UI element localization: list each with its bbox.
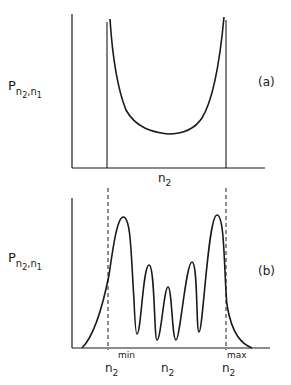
figure: Pn2,n1 (a) n2 Pn2,n1 (b) min n2 n2 max n… (0, 0, 291, 385)
x-tick-n2-min: min n2 (105, 350, 135, 378)
u-curve-a (110, 17, 224, 134)
x-tick-n2: n2 (161, 361, 174, 378)
svg-text:n2: n2 (222, 361, 235, 378)
svg-text:n2: n2 (161, 361, 174, 378)
x-tick-n2-max: max n2 (222, 350, 247, 378)
panel-a: Pn2,n1 (a) n2 (8, 14, 275, 188)
x-label-a: n2 (158, 171, 171, 188)
panel-b: Pn2,n1 (b) min n2 n2 max n2 (8, 188, 275, 378)
panel-label-a: (a) (258, 75, 275, 89)
svg-text:n2: n2 (105, 361, 118, 378)
y-label-b: Pn2,n1 (8, 250, 42, 272)
panel-label-b: (b) (258, 264, 275, 278)
svg-text:max: max (227, 350, 247, 360)
svg-text:min: min (118, 350, 135, 360)
y-label-a: Pn2,n1 (8, 78, 42, 100)
